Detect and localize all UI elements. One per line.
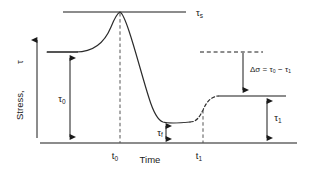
y-axis-label: Stress, bbox=[14, 90, 25, 120]
x-tick-t1: t1 bbox=[196, 150, 203, 162]
tau-1-label: τ1 bbox=[274, 112, 282, 124]
tau-0-label: τ0 bbox=[58, 93, 66, 105]
tau-f-label: τf bbox=[157, 127, 163, 139]
figure-canvas: Stress, τ Time τs t0 t1 τ0 τf τ1 bbox=[0, 0, 315, 169]
stress-curve-recovery-dashed bbox=[190, 96, 218, 122]
y-axis-symbol: τ bbox=[14, 60, 25, 64]
x-tick-t0: t0 bbox=[112, 150, 119, 162]
stress-drop-label: Δσ = τ₀ − τ₁ bbox=[250, 65, 291, 74]
stress-curve-solid bbox=[47, 12, 190, 123]
stress-time-diagram: Stress, τ Time τs t0 t1 τ0 τf τ1 bbox=[0, 0, 315, 169]
x-axis-label: Time bbox=[140, 154, 161, 165]
tau-s-label: τs bbox=[196, 7, 204, 19]
